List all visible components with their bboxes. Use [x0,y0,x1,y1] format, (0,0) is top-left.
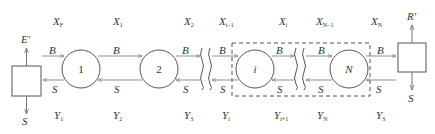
x-label: XN [371,16,382,28]
b-label: B [113,45,120,56]
x-label: Xi−1 [219,16,234,28]
stage-N-label: N [339,64,359,75]
stage-1-label: 1 [71,64,91,75]
s-label: S [318,84,324,95]
x-label: XF [53,16,63,28]
y-label: YS [376,110,385,122]
right-top-label: R′ [407,11,416,22]
y-label: YN [317,110,327,122]
s-label: S [376,84,382,95]
s-label: S [220,84,226,95]
b-label: B [182,45,189,56]
right-bottom-label: S [408,93,414,104]
x-label: Xi [279,16,287,28]
s-label: S [52,84,58,95]
break-mark [295,48,298,90]
x-label: X2 [184,16,194,28]
y-label: Y1 [54,110,63,122]
y-label: Y3 [184,110,193,122]
y-label: Yi [222,110,230,122]
left-unit-box [12,66,41,96]
left-top-label: E′ [21,34,30,45]
s-label: S [114,84,120,95]
left-bottom-label: S [22,116,28,127]
break-mark [209,48,212,90]
s-label: S [277,84,283,95]
x-label: X1 [113,16,123,28]
break-mark [303,48,306,90]
break-mark [201,48,204,90]
b-label: B [219,45,226,56]
b-label: B [377,45,384,56]
b-label: B [318,45,325,56]
stage-i-label: i [245,64,265,75]
x-label: XN−1 [316,16,333,28]
stage-2-label: 2 [149,64,169,75]
y-label: Yi+1 [274,110,288,122]
y-label: Y2 [113,110,122,122]
s-label: S [183,84,189,95]
right-unit-box [398,43,426,72]
cascade-diagram [0,0,435,134]
b-label: B [49,45,56,56]
b-label: B [276,45,283,56]
